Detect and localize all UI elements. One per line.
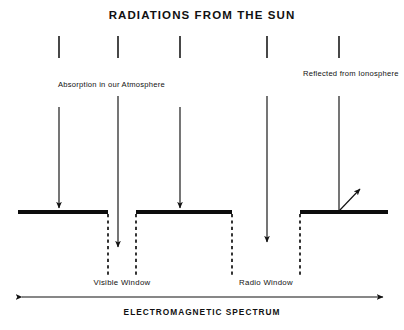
page-title: RADIATIONS FROM THE SUN: [109, 9, 296, 21]
label-radio-window: Radio Window: [239, 278, 293, 287]
spectrum-axis-label: ELECTROMAGNETIC SPECTRUM: [124, 307, 281, 317]
label-visible-window: Visible Window: [94, 278, 151, 287]
radiation-diagram: RADIATIONS FROM THE SUN Absorption in ou…: [0, 0, 404, 330]
diagram-canvas: RADIATIONS FROM THE SUN Absorption in ou…: [0, 0, 404, 330]
annotation-reflected: Reflected from Ionosphere: [303, 69, 399, 78]
annotation-absorption: Absorption in our Atmosphere: [58, 80, 165, 89]
ray-reflected-outgoing: [339, 189, 360, 211]
